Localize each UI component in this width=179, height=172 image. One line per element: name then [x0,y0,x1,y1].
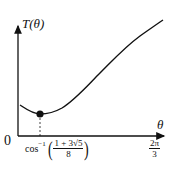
left-paren: ( [48,139,53,159]
curve-T-theta [20,20,163,114]
min-numerator: 1 + 3√5 [53,139,83,149]
min-denominator: 8 [66,149,71,159]
x-axis-label: θ [157,118,163,131]
right-paren: ) [84,139,89,159]
end-numerator: 2π [149,139,160,149]
y-axis-label: T(θ) [22,17,44,30]
end-denominator: 3 [152,149,157,159]
cos-func: cos [25,144,38,154]
minimum-tick-label: cos −1 ( 1 + 3√5 8 ) [25,139,90,159]
end-tick-label: 2π 3 [149,139,160,159]
min-fraction: 1 + 3√5 8 [53,139,83,159]
origin-label: 0 [4,134,11,148]
inverse-superscript: −1 [38,141,45,148]
end-fraction: 2π 3 [149,139,160,159]
minimum-point [36,110,43,117]
